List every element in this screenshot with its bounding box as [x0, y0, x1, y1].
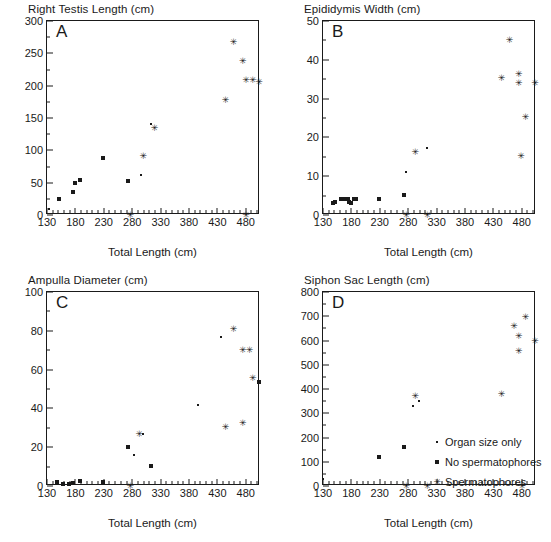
- panel-c-y-tick: [47, 292, 53, 293]
- data-point: [249, 375, 256, 382]
- data-point: [412, 393, 419, 400]
- panel-b-x-tick-minor: [391, 210, 392, 213]
- panel-c-y-tick: [47, 369, 53, 370]
- panel-c-y-tick-minor: [47, 466, 50, 467]
- panel-b-x-tick-minor: [362, 210, 363, 213]
- panel-d-x-tick-minor: [442, 481, 443, 484]
- data-point: [423, 212, 430, 219]
- panel-d-letter: D: [332, 294, 344, 311]
- data-point: [246, 347, 253, 354]
- data-point: [402, 483, 409, 490]
- panel-d-x-tick-label: 180: [342, 487, 360, 499]
- panel-a-x-tick-label: 330: [151, 216, 169, 228]
- panel-c-x-tick-label: 130: [38, 487, 56, 499]
- panel-c-y-tick-label: 40: [31, 402, 47, 414]
- panel-d-x-tick: [323, 479, 324, 484]
- panel-c-x-tick-minor: [86, 481, 87, 484]
- data-point: [333, 200, 337, 204]
- panel-b-x-tick-minor: [345, 210, 346, 213]
- panel-a-x-tick-label: 230: [95, 216, 113, 228]
- panel-a-letter: A: [56, 23, 67, 40]
- data-point: [522, 114, 529, 121]
- panel-d-x-tick-minor: [453, 481, 454, 484]
- panel-b-y-tick: [323, 59, 329, 60]
- data-point: [197, 404, 199, 406]
- panel-b-x-tick-minor: [385, 210, 386, 213]
- panel-a-x-tick-minor: [92, 210, 93, 213]
- panel-a-x-tick-minor: [109, 210, 110, 213]
- panel-a-x-tick-minor: [206, 210, 207, 213]
- panel-b-x-tick-minor: [368, 210, 369, 213]
- data-point: [515, 79, 522, 86]
- panel-c-x-tick-minor: [194, 481, 195, 484]
- panel-d-y-tick: [323, 340, 329, 341]
- data-point: [55, 480, 59, 484]
- data-point: [136, 430, 143, 437]
- legend-item: No spermatophores: [429, 452, 542, 472]
- panel-d-x-tick-minor: [516, 481, 517, 484]
- panel-b-y-tick-minor: [323, 195, 326, 196]
- panel-a-x-tick-minor: [251, 210, 252, 213]
- data-point: [423, 483, 430, 490]
- data-point: [140, 174, 142, 176]
- panel-c-x-tick-minor: [52, 481, 53, 484]
- panel-d-y-tick-label: 300: [301, 407, 323, 419]
- data-point: [531, 80, 538, 87]
- panel-d-x-tick-minor: [476, 481, 477, 484]
- panel-d-y-tick-label: 800: [301, 286, 323, 298]
- panel-a-x-tick-minor: [86, 210, 87, 213]
- panel-a-y-tick-label: 200: [25, 80, 47, 92]
- panel-b-y-axis-title: Epididymis Width (cm): [304, 3, 420, 15]
- panel-c-x-tick-label: 480: [237, 487, 255, 499]
- panel-d-y-tick-label: 100: [301, 456, 323, 468]
- panel-a-plot-area: A 05010015020025030013018023028033038043…: [46, 20, 259, 214]
- panel-b-x-tick-minor: [374, 210, 375, 213]
- panel-a-x-tick-minor: [143, 210, 144, 213]
- panel-b-x-tick-minor: [516, 210, 517, 213]
- panel-b-x-tick-minor: [334, 210, 335, 213]
- panel-b-x-tick-minor: [533, 210, 534, 213]
- panel-a-x-tick-label: 380: [180, 216, 198, 228]
- data-point: [522, 313, 529, 320]
- panel-a-y-tick-label: 150: [25, 112, 47, 124]
- panel-a-x-axis-title: Total Length (cm): [46, 246, 259, 258]
- data-point: [139, 152, 146, 159]
- panel-d-y-tick: [323, 316, 329, 317]
- panel-a-x-tick-minor: [69, 210, 70, 213]
- panel-b-x-tick-label: 380: [456, 216, 474, 228]
- panel-d-x-tick: [351, 479, 352, 484]
- panel-b-y-tick-label: 10: [307, 170, 323, 182]
- panel-a-x-tick-minor: [223, 210, 224, 213]
- panel-d-x-tick-minor: [459, 481, 460, 484]
- data-point: [242, 212, 249, 219]
- panel-c-plot-area: C 020406080100130180230280330380430480: [46, 291, 259, 485]
- panel-b-x-tick: [436, 208, 437, 213]
- panel-b-x-tick-label: 480: [513, 216, 531, 228]
- panel-d-y-tick-minor: [323, 425, 326, 426]
- panel-d-y-tick-label: 600: [301, 335, 323, 347]
- panel-a-y-tick: [47, 21, 53, 22]
- panel-d: Siphon Sac Length (cm) D Organ size only…: [276, 271, 551, 542]
- panel-a-x-tick-minor: [58, 210, 59, 213]
- panel-b-x-tick-label: 230: [371, 216, 389, 228]
- panel-d-x-tick-label: 380: [456, 487, 474, 499]
- legend-marker-dot: [429, 441, 445, 443]
- data-point: [71, 481, 75, 485]
- panel-b-y-tick-minor: [323, 156, 326, 157]
- legend-item: Organ size only: [429, 432, 542, 452]
- panel-c-y-tick-label: 20: [31, 441, 47, 453]
- panel-a-y-tick-label: 50: [31, 177, 47, 189]
- panel-b-x-tick-minor: [328, 210, 329, 213]
- panel-c-x-tick-minor: [171, 481, 172, 484]
- panel-c-y-tick-minor: [47, 350, 50, 351]
- data-point: [230, 39, 237, 46]
- panel-d-x-tick-minor: [345, 481, 346, 484]
- panel-d-x-tick-label: 230: [371, 487, 389, 499]
- panel-b-y-tick-label: 20: [307, 131, 323, 143]
- panel-b-x-tick-minor: [470, 210, 471, 213]
- panel-c-x-tick-label: 230: [95, 487, 113, 499]
- panel-d-x-tick-minor: [368, 481, 369, 484]
- panel-b: Epididymis Width (cm) B 0102030405013018…: [276, 0, 551, 271]
- panel-d-x-tick-minor: [470, 481, 471, 484]
- panel-c-x-tick-minor: [251, 481, 252, 484]
